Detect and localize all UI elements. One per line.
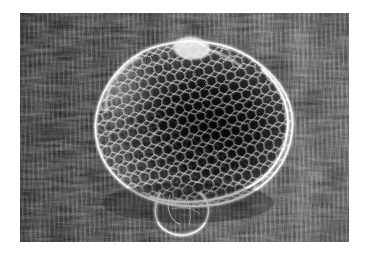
photograph	[20, 13, 349, 242]
page-root	[0, 0, 369, 256]
photo-vignette	[20, 13, 349, 242]
